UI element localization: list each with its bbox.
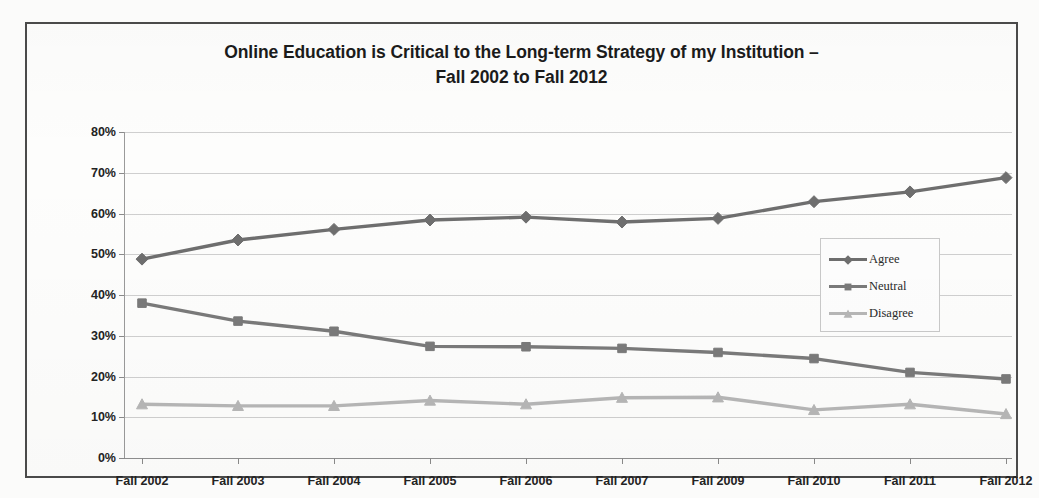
data-point-neutral-fall-2005	[426, 342, 435, 351]
y-axis-tick-label: 40%	[70, 288, 116, 302]
legend-swatch-triangle-icon	[829, 307, 867, 321]
data-point-agree-fall-2011	[904, 186, 916, 198]
series-line-disagree	[142, 397, 1006, 414]
x-tick	[526, 458, 527, 464]
x-axis-label-fall-2006: Fall 2006	[476, 474, 576, 488]
data-point-agree-fall-2003	[232, 234, 244, 246]
y-axis-tick-label: 0%	[70, 451, 116, 465]
x-axis-label-fall-2002: Fall 2002	[92, 474, 192, 488]
x-tick	[334, 458, 335, 464]
chart-legend: AgreeNeutralDisagree	[820, 238, 940, 332]
data-point-agree-fall-2006	[520, 211, 532, 223]
legend-swatch-diamond-icon	[829, 253, 867, 267]
data-point-agree-fall-2009	[712, 212, 724, 224]
legend-label: Agree	[869, 252, 900, 267]
x-axis-label-fall-2012: Fall 2012	[956, 474, 1039, 488]
legend-marker-triangle-icon	[844, 309, 853, 317]
x-tick	[718, 458, 719, 464]
x-axis-label-fall-2011: Fall 2011	[860, 474, 960, 488]
y-axis-tick-label: 70%	[70, 166, 116, 180]
x-axis-label-fall-2010: Fall 2010	[764, 474, 864, 488]
y-tick-0	[119, 458, 125, 459]
chart-title-line-2: Fall 2002 to Fall 2012	[27, 65, 1016, 90]
x-tick	[814, 458, 815, 464]
data-point-neutral-fall-2003	[234, 317, 243, 326]
legend-item-agree[interactable]: Agree	[829, 246, 931, 273]
data-point-neutral-fall-2004	[330, 327, 339, 336]
chart-title: Online Education is Critical to the Long…	[27, 40, 1016, 90]
y-axis-tick-label: 60%	[70, 207, 116, 221]
data-point-neutral-fall-2006	[522, 342, 531, 351]
grid-line-0	[124, 458, 1012, 459]
x-axis-label-fall-2004: Fall 2004	[284, 474, 384, 488]
x-tick	[1006, 458, 1007, 464]
legend-marker-square-icon	[845, 283, 852, 290]
x-tick	[910, 458, 911, 464]
legend-item-neutral[interactable]: Neutral	[829, 273, 931, 300]
data-point-agree-fall-2010	[808, 196, 820, 208]
chart-page: Online Education is Critical to the Long…	[0, 0, 1039, 498]
x-axis-label-fall-2007: Fall 2007	[572, 474, 672, 488]
data-point-agree-fall-2012	[1000, 172, 1012, 184]
y-axis-tick-label: 10%	[70, 410, 116, 424]
legend-label: Neutral	[869, 279, 906, 294]
x-tick	[622, 458, 623, 464]
x-axis-label-fall-2005: Fall 2005	[380, 474, 480, 488]
chart-title-line-1: Online Education is Critical to the Long…	[27, 40, 1016, 65]
data-point-neutral-fall-2011	[906, 368, 915, 377]
data-point-agree-fall-2004	[328, 223, 340, 235]
y-axis-tick-label: 20%	[70, 370, 116, 384]
legend-item-disagree[interactable]: Disagree	[829, 300, 931, 327]
legend-label: Disagree	[869, 306, 913, 321]
chart-frame: Online Education is Critical to the Long…	[25, 22, 1018, 478]
data-point-agree-fall-2005	[424, 214, 436, 226]
legend-marker-diamond-icon	[843, 255, 853, 265]
data-point-neutral-fall-2012	[1002, 375, 1011, 384]
x-axis-label-fall-2009: Fall 2009	[668, 474, 768, 488]
x-tick	[142, 458, 143, 464]
legend-swatch-square-icon	[829, 280, 867, 294]
data-point-neutral-fall-2010	[810, 354, 819, 363]
data-point-agree-fall-2007	[616, 216, 628, 228]
y-axis-tick-label: 80%	[70, 125, 116, 139]
y-axis-tick-label: 50%	[70, 247, 116, 261]
y-axis-tick-label: 30%	[70, 329, 116, 343]
x-tick	[430, 458, 431, 464]
x-axis-label-fall-2003: Fall 2003	[188, 474, 288, 488]
data-point-agree-fall-2002	[136, 253, 148, 265]
data-point-neutral-fall-2007	[618, 344, 627, 353]
data-point-neutral-fall-2002	[138, 299, 147, 308]
x-tick	[238, 458, 239, 464]
series-disagree	[137, 392, 1012, 419]
data-point-neutral-fall-2009	[714, 348, 723, 357]
